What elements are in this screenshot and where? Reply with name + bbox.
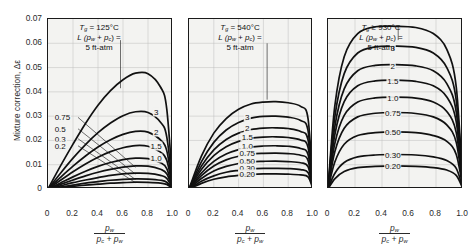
panel-3-x-axis-label: pw pc + pw (327, 224, 462, 245)
panel-3-label-1p5: 1.5 (386, 77, 399, 86)
panel-1-L-mid: + p (95, 33, 109, 42)
y-tick-5: 0.05 (8, 62, 42, 72)
panel-3: 321.51.00.750.500.300.20 Tg ≥ 930°C L (p… (327, 18, 462, 188)
y-tick-4: 0.04 (8, 86, 42, 96)
panel-3-label-1p0: 1.0 (386, 94, 399, 103)
panel-2-L-expr: (p (223, 33, 232, 42)
xplus-3: + (389, 234, 399, 244)
panel-1-x-axis-label: pw pc + pw (47, 224, 172, 245)
xdensub2-1: w (118, 239, 122, 245)
panel-3-L-suffix: ) = (393, 33, 403, 42)
panel-3-x-tick-0: 0 (325, 208, 330, 218)
panel-1-x-tick-5: 1.0 (166, 208, 178, 218)
xplus-2: + (245, 234, 255, 244)
panel-3-label-0p30: 0.30 (384, 150, 402, 159)
panel-3-x-tick-2: 0.4 (375, 208, 387, 218)
panel-2-label-2: 2 (244, 124, 250, 133)
panel-1-units: 5 ft-atm (85, 43, 112, 52)
panel-2-temp-value: = 540°C (228, 23, 259, 32)
panel-2-units: 5 ft-atm (226, 43, 253, 52)
xnumsub-2: w (250, 227, 254, 233)
panel-1-label-0p5: 0.5 (54, 124, 67, 133)
panel-3-x-tick-3: 0.6 (402, 208, 414, 218)
panel-3-x-tick-5: 1.0 (456, 208, 468, 218)
y-axis-ticks: 00.010.020.030.040.050.060.07 (8, 0, 42, 242)
panel-2: 321.51.00.750.500.300.20 Tg = 540°C L (p… (188, 18, 312, 188)
xdensub2-2: w (259, 239, 263, 245)
panel-3-x-tick-1: 0.2 (348, 208, 360, 218)
xnumsub-3: w (395, 227, 399, 233)
y-tick-3: 0.03 (8, 110, 42, 120)
xplus-1: + (104, 234, 114, 244)
panel-3-temp-value: ≥ 930°C (369, 23, 400, 32)
panel-1-temp-value: = 125°C (87, 23, 118, 32)
panel-1-x-tick-1: 0.2 (66, 208, 78, 218)
panel-2-label-1p5: 1.5 (241, 133, 254, 142)
panel-3-units: 5 ft-atm (367, 43, 394, 52)
panel-2-x-axis-label: pw pc + pw (188, 224, 312, 245)
panel-3-L-expr: (p (364, 33, 373, 42)
panel-3-label-0p50: 0.50 (384, 128, 402, 137)
y-tick-0: 0 (8, 183, 42, 193)
y-tick-1: 0.01 (8, 159, 42, 169)
panel-1-x-tick-3: 0.6 (116, 208, 128, 218)
xnumsub-1: w (110, 227, 114, 233)
y-tick-7: 0.07 (8, 13, 42, 23)
panel-2-x-tick-3: 0.6 (257, 208, 269, 218)
panel-1-label-2: 2 (153, 127, 159, 136)
panel-2-x-tick-1: 0.2 (207, 208, 219, 218)
panel-2-x-tick-4: 0.8 (281, 208, 293, 218)
panel-2-x-tick-2: 0.4 (232, 208, 244, 218)
panel-1-x-tick-4: 0.8 (141, 208, 153, 218)
panel-1-annotation: Tg = 125°C L (pw + pc) = 5 ft-atm (53, 23, 145, 54)
y-tick-2: 0.02 (8, 134, 42, 144)
panel-3-L-mid: + p (377, 33, 391, 42)
panel-3-label-0p20: 0.20 (384, 162, 402, 171)
panel-2-x-tick-0: 0 (186, 208, 191, 218)
panel-1-x-tick-2: 0.4 (91, 208, 103, 218)
panel-3-label-2: 2 (390, 61, 396, 70)
panel-2-label-3: 3 (244, 112, 250, 121)
panel-1-label-3: 3 (153, 108, 159, 117)
panel-1-x-tick-0: 0 (45, 208, 50, 218)
panel-1-label-1p5: 1.5 (150, 141, 163, 150)
panel-1-L-suffix: ) = (111, 33, 121, 42)
panel-1-label-1p0: 1.0 (150, 154, 163, 163)
panel-2-annotation: Tg = 540°C L (pw + pc) = 5 ft-atm (194, 23, 286, 54)
panel-3-annotation: Tg ≥ 930°C L (pw + pc) = 5 ft-atm (333, 23, 429, 54)
panel-1-label-0p75: 0.75 (54, 113, 72, 122)
panel-1: 321.51.00.750.50.30.2 Tg = 125°C L (pw +… (47, 18, 172, 188)
curve-0p30 (328, 155, 462, 188)
panel-2-x-tick-5: 1.0 (306, 208, 318, 218)
panel-1-label-0p2: 0.2 (54, 141, 67, 150)
panel-2-L-mid: + p (236, 33, 250, 42)
panel-3-x-tick-4: 0.8 (429, 208, 441, 218)
panel-1-L-expr: (p (82, 33, 91, 42)
xdensub2-3: w (403, 239, 407, 245)
panel-3-label-0p75: 0.75 (384, 109, 402, 118)
panel-2-label-0p20: 0.20 (238, 170, 256, 179)
y-tick-6: 0.06 (8, 37, 42, 47)
panel-2-L-suffix: ) = (252, 33, 262, 42)
